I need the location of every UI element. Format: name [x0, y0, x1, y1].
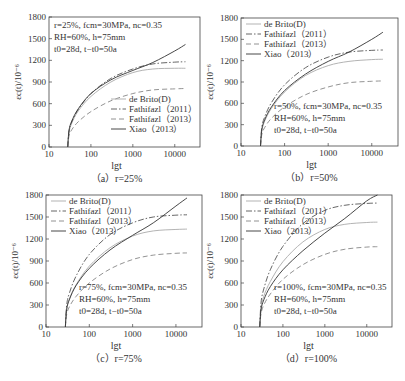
y-tick-label: 300 [33, 120, 47, 130]
x-tick-label: 10 [45, 149, 55, 159]
legend: de Brito(D)Fathifazl（2011）Fathifazl（2013… [111, 94, 197, 134]
x-tick-label: 10 [42, 329, 52, 339]
y-tick-label: 1200 [220, 56, 239, 66]
x-axis-label: lgt [303, 340, 314, 351]
y-tick-label: 1800 [220, 13, 239, 23]
parameter-annotation: r=25%, fcm=30MPa, nc=0.35RH=60%, h=75mmt… [54, 20, 162, 54]
legend-label: Xiao（2013） [129, 124, 183, 134]
x-tick-label: 1000 [124, 149, 143, 159]
x-tick-label: 1000 [316, 329, 335, 339]
legend-label: de Brito(D) [264, 196, 306, 206]
annotation-line: t0=28d, t−t0=50a [79, 306, 142, 316]
annotation-line: r=25%, fcm=30MPa, nc=0.35 [54, 20, 162, 30]
x-tick-label: 10000 [356, 329, 379, 339]
annotation-line: RH=60%, h=75mm [274, 294, 345, 304]
legend-label: Fathifazl（2013） [129, 114, 197, 124]
y-axis-label: εc(t)/10⁻⁶ [10, 243, 20, 279]
legend-label: de Brito(D) [69, 196, 111, 206]
y-axis-label: εc(t)/10⁻⁶ [13, 64, 23, 100]
y-tick-label: 600 [33, 99, 47, 109]
y-tick-label: 300 [225, 120, 239, 130]
y-tick-label: 1800 [25, 190, 44, 200]
x-tick-label: 10000 [361, 148, 384, 158]
y-tick-label: 1500 [220, 212, 239, 222]
x-tick-label: 10 [237, 329, 247, 339]
x-tick-label: 100 [83, 329, 97, 339]
annotation-line: RH=60%, h=75mm [54, 32, 125, 42]
annotation-line: r=50%, fcm=30MPa, nc=0.35 [274, 101, 382, 111]
x-tick-label: 10000 [164, 149, 187, 159]
y-tick-label: 1200 [220, 234, 239, 244]
y-tick-label: 600 [225, 278, 239, 288]
x-axis-label: lgt [111, 340, 122, 351]
legend-label: Xiao（2013） [69, 226, 123, 236]
legend-label: Fathifazl（2013） [264, 39, 332, 49]
y-tick-label: 1500 [28, 34, 47, 44]
y-tick-label: 1500 [25, 212, 44, 222]
y-tick-label: 1800 [28, 12, 47, 22]
y-tick-label: 300 [225, 300, 239, 310]
x-tick-label: 10000 [165, 329, 188, 339]
x-tick-label: 1000 [124, 329, 143, 339]
legend-label: Fathifazl（2011） [69, 206, 137, 216]
legend: de Brito(D)Fathifazl（2011）Fathifazl（2013… [246, 196, 332, 236]
annotation-line: t0=28d, t−t0=50a [54, 44, 117, 54]
y-tick-label: 600 [30, 278, 44, 288]
y-tick-label: 1200 [25, 234, 44, 244]
parameter-annotation: r=100%, fcm=30MPa, nc=0.35RH=60%, h=75mm… [274, 282, 387, 316]
parameter-annotation: r=50%, fcm=30MPa, nc=0.35RH=60%, h=75mmt… [274, 101, 382, 135]
legend-label: de Brito(D) [129, 94, 171, 104]
chart-panel-a: 030060090012001500180010100100010000lgtε… [13, 12, 200, 184]
chart-panel-d: 030060090012001500180010100100010000lgtε… [205, 190, 392, 364]
parameter-annotation: r=75%, fcm=30MPa, nc=0.35RH=60%, h=75mmt… [79, 282, 187, 316]
chart-panel-c: 030060090012001500180010100100010000lgtε… [10, 190, 202, 364]
legend-label: Fathifazl（2011） [129, 104, 197, 114]
x-tick-label: 1000 [319, 148, 338, 158]
legend: de Brito(D)Fathifazl（2011）Fathifazl（2013… [51, 196, 137, 236]
y-tick-label: 600 [225, 98, 239, 108]
figure-canvas: 030060090012001500180010100100010000lgtε… [0, 0, 405, 381]
annotation-line: t0=28d, t−t0=50a [274, 125, 337, 135]
y-axis-label: εc(t)/10⁻⁶ [205, 243, 215, 279]
annotation-line: t0=28d, t−t0=50a [274, 306, 337, 316]
x-axis-label: lgt [111, 160, 122, 171]
y-tick-label: 1200 [28, 55, 47, 65]
legend-label: Fathifazl（2013） [264, 216, 332, 226]
legend-label: Fathifazl（2013） [69, 216, 137, 226]
y-tick-label: 300 [30, 300, 44, 310]
y-tick-label: 900 [30, 256, 44, 266]
x-tick-label: 100 [276, 329, 290, 339]
chart-panel-b: 030060090012001500180010100100010000lgtε… [205, 13, 398, 183]
y-tick-label: 1800 [220, 190, 239, 200]
y-tick-label: 900 [225, 77, 239, 87]
legend: de Brito(D)Fathifazl（2011）Fathifazl（2013… [246, 19, 332, 59]
legend-label: Fathifazl（2011） [264, 206, 332, 216]
legend-label: de Brito(D) [264, 19, 306, 29]
annotation-line: RH=60%, h=75mm [79, 294, 150, 304]
x-tick-label: 10 [237, 148, 247, 158]
panel-caption: （b）r=50% [285, 172, 337, 183]
panel-caption: （c）r=75% [90, 353, 142, 364]
y-tick-label: 900 [33, 77, 47, 87]
legend-label: Xiao（2013） [264, 226, 318, 236]
panel-caption: （a）r=25% [91, 173, 143, 184]
y-tick-label: 900 [225, 256, 239, 266]
annotation-line: RH=60%, h=75mm [274, 113, 345, 123]
legend-label: Fathifazl（2011） [264, 29, 332, 39]
y-axis-label: εc(t)/10⁻⁶ [205, 64, 215, 100]
x-tick-label: 100 [278, 148, 292, 158]
annotation-line: r=100%, fcm=30MPa, nc=0.35 [274, 282, 387, 292]
legend-label: Xiao（2013） [264, 49, 318, 59]
panel-caption: （d）r=100% [280, 353, 337, 364]
y-tick-label: 1500 [220, 34, 239, 44]
x-tick-label: 100 [84, 149, 98, 159]
annotation-line: r=75%, fcm=30MPa, nc=0.35 [79, 282, 187, 292]
x-axis-label: lgt [306, 159, 317, 170]
